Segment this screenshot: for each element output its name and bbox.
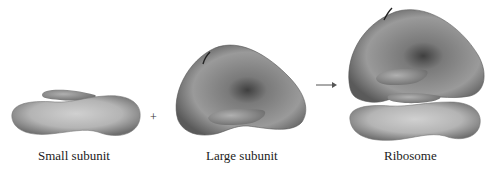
small-subunit-shape (12, 90, 140, 136)
large-subunit-shape (176, 45, 306, 135)
small-subunit-label: Small subunit (38, 148, 110, 164)
plus-sign: + (150, 110, 157, 125)
ribosome-shape (349, 8, 484, 140)
large-subunit-label: Large subunit (206, 148, 278, 164)
arrow-operator (316, 82, 337, 88)
ribosome-label: Ribosome (384, 148, 437, 164)
